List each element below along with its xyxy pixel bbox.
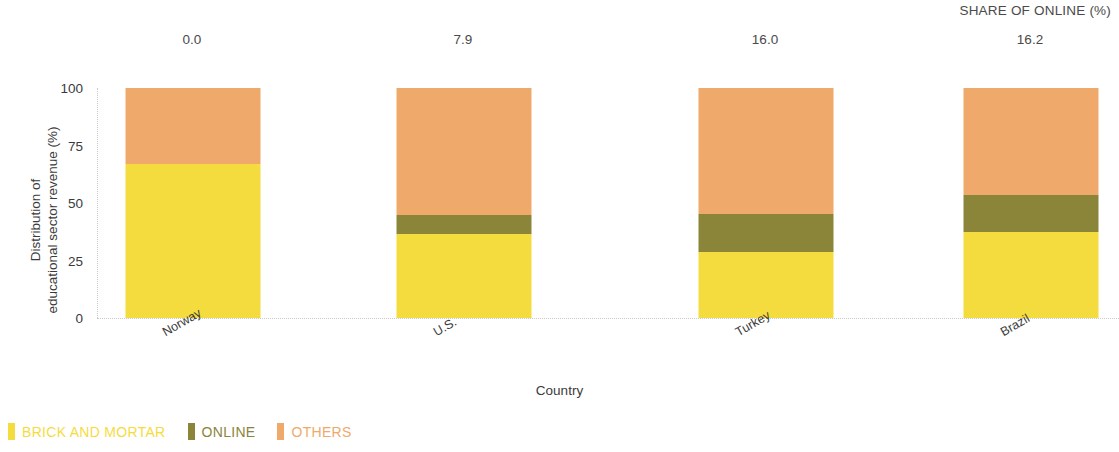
bar-segment[interactable]: [126, 88, 261, 164]
bar-segment[interactable]: [397, 88, 532, 215]
bar-stack[interactable]: [964, 88, 1099, 318]
share-of-online-value: 7.9: [454, 32, 473, 47]
y-tick-label: 25: [37, 253, 83, 268]
bar-segment[interactable]: [397, 215, 532, 234]
legend-swatch-icon: [277, 423, 284, 440]
x-axis-label: Country: [0, 383, 1119, 398]
legend-label: BRICK AND MORTAR: [22, 424, 166, 440]
share-of-online-value: 16.2: [1017, 32, 1043, 47]
bar-segment[interactable]: [964, 232, 1099, 318]
bar-segment[interactable]: [397, 234, 532, 318]
legend-swatch-icon: [188, 423, 195, 440]
bar-segment[interactable]: [699, 88, 834, 214]
x-axis-line: [97, 318, 1119, 319]
legend-label: OTHERS: [291, 424, 351, 440]
chart-figure: SHARE OF ONLINE (%) 0.07.916.016.2 Distr…: [0, 0, 1119, 452]
plot-area: [97, 88, 1119, 318]
legend-label: ONLINE: [202, 424, 256, 440]
y-tick-label: 75: [37, 138, 83, 153]
bar-stack[interactable]: [126, 88, 261, 318]
y-tick-label: 50: [37, 196, 83, 211]
legend-swatch-icon: [8, 423, 15, 440]
bar-stack[interactable]: [397, 88, 532, 318]
share-of-online-value: 0.0: [183, 32, 202, 47]
legend-item[interactable]: OTHERS: [277, 423, 351, 440]
legend-item[interactable]: BRICK AND MORTAR: [8, 423, 166, 440]
share-of-online-value: 16.0: [752, 32, 778, 47]
bar-segment[interactable]: [126, 164, 261, 318]
bar-stack[interactable]: [699, 88, 834, 318]
legend: BRICK AND MORTARONLINEOTHERS: [8, 423, 352, 440]
bar-segment[interactable]: [964, 88, 1099, 195]
share-of-online-title: SHARE OF ONLINE (%): [959, 3, 1111, 18]
bar-segment[interactable]: [699, 214, 834, 252]
y-tick-label: 0: [37, 311, 83, 326]
y-tick-label: 100: [37, 81, 83, 96]
legend-item[interactable]: ONLINE: [188, 423, 256, 440]
share-of-online-values: 0.07.916.016.2: [0, 32, 1119, 52]
bar-segment[interactable]: [964, 195, 1099, 232]
